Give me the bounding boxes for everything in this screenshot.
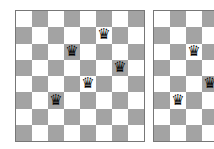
board-square bbox=[128, 60, 144, 76]
queen-icon: ♛ bbox=[203, 76, 214, 91]
board-square bbox=[128, 11, 144, 27]
board-square bbox=[80, 44, 96, 60]
board-square bbox=[202, 27, 214, 43]
board-square bbox=[112, 27, 128, 43]
board-square bbox=[128, 76, 144, 92]
board-square bbox=[202, 125, 214, 141]
board-square bbox=[48, 44, 64, 60]
board-square bbox=[16, 109, 32, 125]
board-square bbox=[154, 125, 170, 141]
board-square bbox=[170, 125, 186, 141]
board-square bbox=[32, 60, 48, 76]
board-square bbox=[154, 109, 170, 125]
board-square: ♛ bbox=[170, 92, 186, 108]
board-square bbox=[80, 109, 96, 125]
board-square bbox=[154, 92, 170, 108]
board-square bbox=[170, 109, 186, 125]
queen-icon: ♛ bbox=[97, 27, 110, 42]
queen-icon: ♛ bbox=[171, 93, 184, 108]
board-square bbox=[154, 76, 170, 92]
board-square bbox=[16, 44, 32, 60]
board-square bbox=[32, 27, 48, 43]
board-square bbox=[186, 109, 202, 125]
board-square: ♛ bbox=[112, 60, 128, 76]
board-square bbox=[154, 60, 170, 76]
board-square bbox=[170, 44, 186, 60]
board-square bbox=[170, 27, 186, 43]
board-square bbox=[112, 76, 128, 92]
board-square bbox=[202, 109, 214, 125]
board-square bbox=[16, 92, 32, 108]
board-square bbox=[186, 76, 202, 92]
board-square bbox=[186, 92, 202, 108]
board-square bbox=[202, 11, 214, 27]
board-square: ♛ bbox=[48, 92, 64, 108]
board-square bbox=[96, 92, 112, 108]
board-square bbox=[32, 109, 48, 125]
board-square bbox=[154, 44, 170, 60]
board-square bbox=[128, 109, 144, 125]
board-square bbox=[96, 76, 112, 92]
board-square bbox=[64, 76, 80, 92]
board-square bbox=[186, 125, 202, 141]
board-square bbox=[202, 92, 214, 108]
board-square bbox=[16, 27, 32, 43]
board-square bbox=[96, 44, 112, 60]
queen-icon: ♛ bbox=[81, 76, 94, 91]
board-square bbox=[186, 60, 202, 76]
board-square bbox=[96, 125, 112, 141]
board-square bbox=[64, 60, 80, 76]
queen-icon: ♛ bbox=[65, 44, 78, 59]
board-square bbox=[48, 60, 64, 76]
board-square bbox=[80, 11, 96, 27]
board-square bbox=[32, 44, 48, 60]
board-square bbox=[128, 92, 144, 108]
board-square bbox=[112, 11, 128, 27]
board-square bbox=[80, 125, 96, 141]
board-square bbox=[64, 109, 80, 125]
board-square bbox=[112, 92, 128, 108]
queen-icon: ♛ bbox=[49, 93, 62, 108]
board-square bbox=[128, 27, 144, 43]
board-square bbox=[170, 11, 186, 27]
queen-icon: ♛ bbox=[187, 44, 200, 59]
chessboard-2: ♛♛♛ bbox=[153, 10, 214, 142]
board-square bbox=[202, 44, 214, 60]
board-square bbox=[128, 125, 144, 141]
board-square bbox=[48, 125, 64, 141]
board-square bbox=[48, 109, 64, 125]
board-square bbox=[154, 11, 170, 27]
queen-icon: ♛ bbox=[113, 60, 126, 75]
board-square: ♛ bbox=[64, 44, 80, 60]
board-square bbox=[128, 44, 144, 60]
board-square bbox=[32, 125, 48, 141]
board-square bbox=[96, 60, 112, 76]
board-square bbox=[32, 76, 48, 92]
board-square bbox=[16, 60, 32, 76]
board-square: ♛ bbox=[80, 76, 96, 92]
board-square bbox=[64, 125, 80, 141]
board-square bbox=[16, 125, 32, 141]
board-square bbox=[112, 125, 128, 141]
board-square bbox=[154, 27, 170, 43]
board-square bbox=[32, 11, 48, 27]
board-square bbox=[80, 27, 96, 43]
board-square bbox=[16, 76, 32, 92]
board-square bbox=[32, 92, 48, 108]
board-square bbox=[64, 11, 80, 27]
board-square: ♛ bbox=[186, 44, 202, 60]
board-square bbox=[16, 11, 32, 27]
board-square: ♛ bbox=[96, 27, 112, 43]
board-square bbox=[186, 11, 202, 27]
board-square bbox=[96, 109, 112, 125]
board-square bbox=[48, 11, 64, 27]
board-square: ♛ bbox=[202, 76, 214, 92]
chessboard-1: ♛♛♛♛♛ bbox=[15, 10, 145, 142]
board-square bbox=[170, 60, 186, 76]
board-square bbox=[48, 27, 64, 43]
board-square bbox=[112, 109, 128, 125]
board-square bbox=[64, 92, 80, 108]
board-square bbox=[80, 92, 96, 108]
